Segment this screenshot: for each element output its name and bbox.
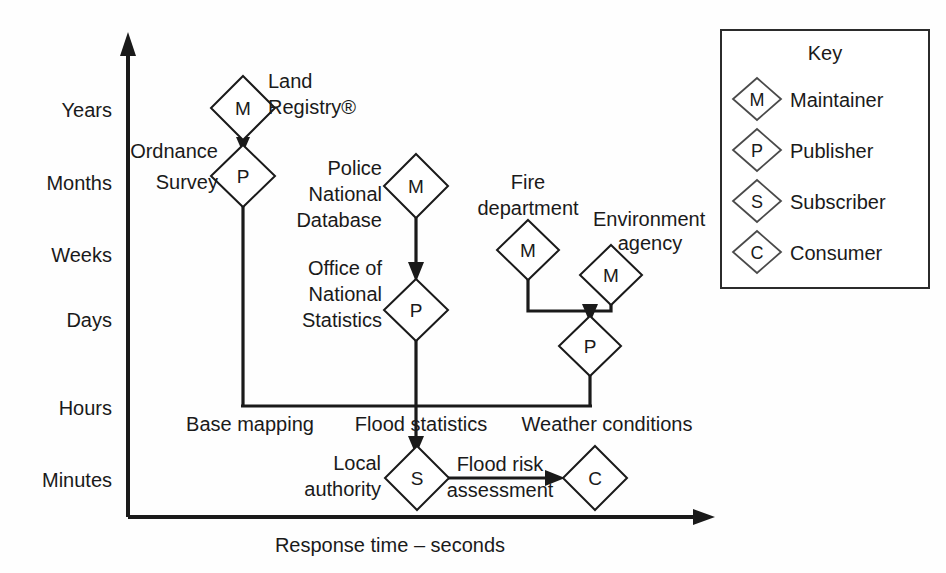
x-axis-arrowhead	[693, 509, 715, 525]
node-environment-agency[interactable]: M Environment agency	[580, 208, 706, 305]
node-label-land-registry-line1: Land	[268, 70, 313, 92]
x-axis-title: Response time – seconds	[275, 534, 505, 556]
flow-label-weather-conditions: Weather conditions	[522, 413, 693, 435]
node-land-registry[interactable]: M Land Registry®	[211, 70, 356, 140]
flow-fire-department-to-weather-publisher	[528, 279, 590, 311]
node-label-ons-line1: Office of	[308, 257, 383, 279]
node-label-environment-agency-line2: agency	[618, 232, 683, 254]
node-label-environment-agency-line1: Environment	[593, 208, 706, 230]
node-label-land-registry-line2: Registry®	[268, 96, 356, 118]
node-office-national-statistics[interactable]: P Office of National Statistics	[302, 257, 448, 341]
node-local-authority[interactable]: S Local authority	[304, 446, 449, 510]
y-tick-label-minutes: Minutes	[42, 469, 112, 491]
diagram-canvas: Years Months Weeks Days Hours Minutes Re…	[0, 0, 946, 573]
node-label-local-authority-line1: Local	[333, 452, 381, 474]
y-tick-label-months: Months	[46, 172, 112, 194]
node-label-police-db-line2: National	[309, 183, 382, 205]
key-item-label: Consumer	[790, 242, 883, 264]
y-tick-label-days: Days	[66, 309, 112, 331]
edge-label-flood-risk-line1: Flood risk	[457, 453, 545, 475]
x-axis	[128, 509, 715, 525]
node-letter: P	[237, 166, 250, 187]
key-item-letter: C	[751, 243, 764, 263]
node-letter: S	[411, 468, 424, 489]
node-letter: C	[588, 468, 602, 489]
node-label-fire-department-line2: department	[477, 197, 579, 219]
key-item-letter: S	[751, 192, 763, 212]
node-letter: P	[410, 300, 423, 321]
key-legend: Key M Maintainer P Publisher S Subscribe…	[721, 30, 929, 288]
node-label-police-db-line3: Database	[296, 209, 382, 231]
node-label-ordnance-survey-line2: Survey	[156, 171, 218, 193]
node-label-ons-line2: National	[309, 283, 382, 305]
flow-label-flood-statistics: Flood statistics	[355, 413, 487, 435]
node-label-ons-line3: Statistics	[302, 309, 382, 331]
y-axis-arrowhead	[120, 32, 136, 56]
key-item-label: Publisher	[790, 140, 874, 162]
y-tick-label-hours: Hours	[59, 397, 112, 419]
node-fire-department[interactable]: M Fire department	[477, 171, 579, 280]
node-letter: M	[520, 240, 536, 261]
node-police-national-database[interactable]: M Police National Database	[296, 154, 448, 231]
flow-label-base-mapping: Base mapping	[186, 413, 314, 435]
key-item-letter: M	[750, 90, 765, 110]
node-letter: M	[235, 98, 251, 119]
key-title: Key	[808, 42, 842, 64]
key-item-letter: P	[751, 141, 763, 161]
node-letter: M	[603, 265, 619, 286]
node-label-police-db-line1: Police	[328, 157, 382, 179]
key-item-label: Maintainer	[790, 89, 884, 111]
node-label-ordnance-survey-line1: Ordnance	[130, 140, 218, 162]
node-letter: P	[584, 336, 597, 357]
key-item-label: Subscriber	[790, 191, 886, 213]
edge-label-flood-risk-line2: assessment	[447, 479, 554, 501]
y-axis	[120, 32, 136, 517]
node-ordnance-survey[interactable]: P Ordnance Survey	[130, 140, 275, 207]
node-label-local-authority-line2: authority	[304, 478, 381, 500]
node-consumer[interactable]: C	[563, 446, 627, 510]
node-label-fire-department-line1: Fire	[511, 171, 545, 193]
node-letter: M	[408, 176, 424, 197]
node-weather-publisher[interactable]: P	[559, 316, 621, 376]
y-tick-label-years: Years	[62, 99, 112, 121]
y-tick-label-weeks: Weeks	[51, 244, 112, 266]
